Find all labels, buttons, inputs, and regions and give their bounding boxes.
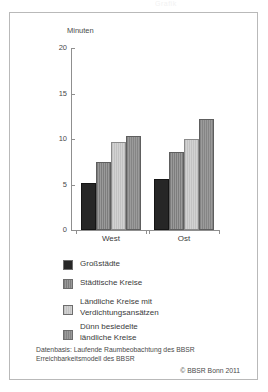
legend-label-line: Verdichtungsansätzen — [80, 308, 259, 319]
source-line-2: Erreichbarkeitsmodell des BBSR — [36, 354, 246, 363]
bar — [111, 142, 126, 230]
legend-swatch-icon — [63, 330, 73, 340]
legend-label: Großstädte — [80, 259, 259, 270]
legend-label-line: Großstädte — [80, 259, 259, 270]
source-line-1: Datenbasis: Laufende Raumbeobachtung des… — [36, 345, 246, 354]
legend-item: Ländliche Kreise mitVerdichtungsansätzen — [10, 297, 259, 318]
legend-label: Städtische Kreise — [80, 278, 259, 289]
legend-swatch-icon — [63, 305, 73, 315]
chart-frame: Minuten 05101520 WestOst GroßstädteStädt… — [9, 12, 258, 380]
copyright-note: © BBSR Bonn 2011 — [36, 367, 240, 374]
legend-label-line: Ländliche Kreise mit — [80, 297, 259, 308]
legend-label-line: Städtische Kreise — [80, 278, 259, 289]
chart-screenshot: Grafik Minuten 05101520 WestOst Großstäd… — [0, 0, 268, 392]
legend-swatch-icon — [63, 260, 73, 270]
x-category-label: Ost — [154, 234, 214, 243]
legend-swatch-icon — [63, 279, 73, 289]
bar — [169, 152, 184, 230]
bar — [96, 162, 111, 230]
legend-item: Städtische Kreise — [10, 278, 259, 293]
bar — [199, 119, 214, 230]
bar-series-container — [10, 13, 259, 245]
legend-label: Dünn besiedelteländliche Kreise — [80, 322, 259, 343]
legend-label: Ländliche Kreise mitVerdichtungsansätzen — [80, 297, 259, 318]
legend-item: Dünn besiedelteländliche Kreise — [10, 322, 259, 343]
legend-label-line: ländliche Kreise — [80, 333, 259, 344]
plot-area: Minuten 05101520 WestOst — [10, 13, 259, 245]
x-category-label: West — [81, 234, 141, 243]
legend-item: Großstädte — [10, 259, 259, 274]
bar — [81, 183, 96, 230]
bar — [184, 139, 199, 230]
source-note: Datenbasis: Laufende Raumbeobachtung des… — [36, 345, 246, 363]
bar — [154, 179, 169, 230]
bar — [126, 136, 141, 230]
faded-title-fragment: Grafik — [155, 0, 225, 9]
chart-legend: GroßstädteStädtische KreiseLändliche Kre… — [10, 259, 259, 347]
legend-label-line: Dünn besiedelte — [80, 322, 259, 333]
